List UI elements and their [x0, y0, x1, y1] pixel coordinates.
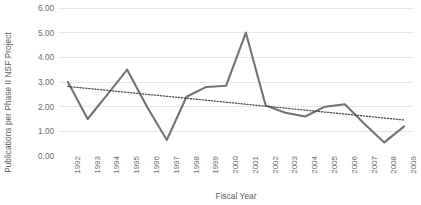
y-axis-title: Publications per Phase II NSF Project [0, 0, 16, 205]
x-axis-title: Fiscal Year [58, 189, 414, 203]
x-tick-label: 2006 [349, 156, 361, 188]
y-tick-label: 5.00 [38, 28, 54, 37]
y-tick-label: 4.00 [38, 53, 54, 62]
x-tick-label: 1999 [210, 156, 222, 188]
gridlines [58, 8, 414, 156]
x-tick-label: 1993 [92, 156, 104, 188]
x-tick-label: 2004 [309, 156, 321, 188]
x-tick-label: 1992 [72, 156, 84, 188]
x-tick-label: 1996 [151, 156, 163, 188]
data-line-series [68, 33, 404, 143]
x-tick-label: 2008 [388, 156, 400, 188]
x-tick-label: 1995 [131, 156, 143, 188]
y-tick-label: 3.00 [38, 78, 54, 87]
x-tick-label: 2002 [270, 156, 282, 188]
trendline-series [68, 86, 404, 120]
x-tick-label: 2000 [230, 156, 242, 188]
chart-container: Publications per Phase II NSF Project 0.… [0, 0, 421, 205]
x-tick-label: 1998 [191, 156, 203, 188]
x-tick-label: 1994 [111, 156, 123, 188]
x-tick-label: 2003 [289, 156, 301, 188]
y-tick-label: 1.00 [38, 127, 54, 136]
x-tick-label: 2001 [250, 156, 262, 188]
x-axis-tick-labels: 1992199319941995199619971998199920002001… [58, 156, 414, 190]
x-tick-label: 1997 [171, 156, 183, 188]
data-series-layer [68, 33, 404, 143]
chart-plot-svg [58, 8, 414, 156]
x-tick-label: 2009 [408, 156, 420, 188]
y-tick-label: 0.00 [38, 152, 54, 161]
y-tick-label: 2.00 [38, 102, 54, 111]
plot-area [58, 8, 414, 156]
y-axis-tick-labels: 0.001.002.003.004.005.006.00 [16, 0, 56, 205]
x-tick-label: 2007 [369, 156, 381, 188]
y-tick-label: 6.00 [38, 4, 54, 13]
x-tick-label: 2005 [329, 156, 341, 188]
